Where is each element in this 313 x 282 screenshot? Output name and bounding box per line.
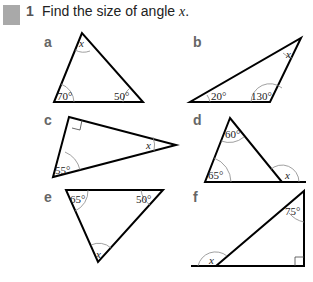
triangle-b [190, 38, 301, 102]
svg-text:70°: 70° [57, 90, 72, 102]
svg-text:x: x [95, 248, 101, 260]
svg-text:x: x [145, 139, 151, 151]
svg-text:50°: 50° [114, 90, 129, 102]
svg-text:65°: 65° [70, 193, 85, 205]
svg-text:20°: 20° [211, 90, 226, 102]
svg-text:60°: 60° [225, 128, 240, 140]
svg-text:75°: 75° [285, 205, 300, 217]
svg-text:x: x [78, 37, 84, 49]
triangle-c [53, 117, 176, 177]
svg-text:55°: 55° [55, 164, 70, 176]
svg-text:x: x [284, 169, 290, 181]
svg-text:x: x [208, 254, 214, 266]
svg-text:130°: 130° [251, 90, 272, 102]
svg-text:x: x [285, 48, 291, 60]
svg-text:50°: 50° [136, 193, 151, 205]
triangle-f [216, 191, 304, 266]
triangle-figures: x 70° 50° x 20° 130° x 55° 60° 65° x 65°… [0, 0, 313, 282]
svg-text:65°: 65° [208, 169, 223, 181]
